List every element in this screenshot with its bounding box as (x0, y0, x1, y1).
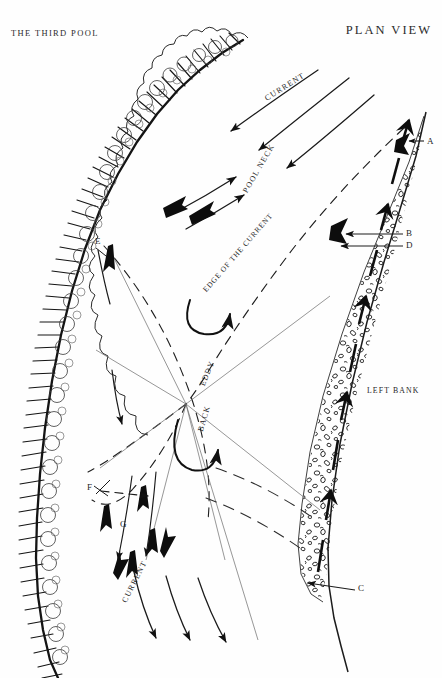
point-ticks (94, 248, 110, 496)
label-left-bank: LEFT BANK (367, 386, 419, 395)
back-eddy-solid-arrow (103, 244, 115, 272)
eddy-curl-upper (187, 300, 230, 334)
page-title-left: THE THIRD POOL (11, 28, 99, 38)
point-label-f: F (87, 482, 92, 492)
point-label-g: G (120, 519, 127, 529)
pool-neck-solid-arrows (163, 196, 216, 225)
diagram-artwork (0, 0, 442, 678)
point-label-b: B (406, 228, 412, 238)
point-label-d: D (406, 240, 413, 250)
top-current-arrows (231, 70, 374, 168)
pool-neck-arrows (176, 177, 244, 229)
page-title-right: PLAN VIEW (346, 23, 432, 38)
point-label-e: E (95, 236, 101, 246)
point-label-a: A (427, 136, 434, 146)
plan-view-diagram: THE THIRD POOL PLAN VIEW CURRENT POOL NE… (0, 0, 442, 678)
bottom-current-arrows (134, 572, 226, 642)
point-label-c: C (358, 583, 364, 593)
